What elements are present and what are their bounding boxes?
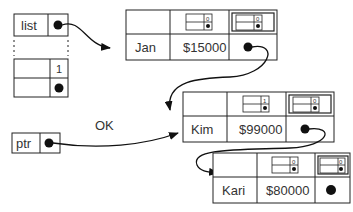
node-kim: 1 0 Kim $99000 [183, 92, 334, 142]
mini-node-icon: 0 [289, 95, 331, 113]
count-value: 1 [56, 63, 62, 75]
node-kari: 0 0 Kari $80000 [213, 153, 350, 203]
mini-node-icon: 0 [272, 157, 298, 173]
pointer-dot-icon [244, 43, 253, 52]
pointer-dot-icon [55, 84, 64, 93]
ptr-label: ptr [16, 136, 32, 151]
node-name: Kari [222, 183, 245, 198]
node-salary: $99000 [239, 122, 282, 137]
node-salary: $80000 [266, 183, 309, 198]
ptr-arrow [53, 133, 178, 146]
node-salary: $15000 [183, 40, 226, 55]
linked-list-diagram: list 1 0 0 [0, 0, 353, 212]
mini-node-icon: 0 [232, 13, 274, 31]
pointer-dot-icon [326, 185, 336, 195]
mini-node-icon: 1 [243, 96, 269, 112]
memory-block: 1 [14, 59, 68, 97]
edge-label: OK [95, 118, 114, 133]
pointer-dot-icon [54, 21, 63, 30]
mini-node-icon: 0 [186, 14, 212, 30]
pointer-dot-icon [301, 125, 310, 134]
node-name: Jan [135, 40, 156, 55]
ptr-variable: ptr [12, 133, 60, 153]
list-arrow [62, 24, 110, 48]
pointer-dot-icon [45, 139, 54, 148]
list-label: list [21, 18, 37, 33]
node-jan: 0 0 Jan $15000 [126, 10, 277, 60]
mini-node-icon: 0 [318, 156, 348, 174]
list-variable: list [14, 14, 68, 36]
node-name: Kim [191, 122, 213, 137]
